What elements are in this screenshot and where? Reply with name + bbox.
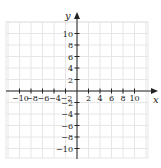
y-tick-label: 10 xyxy=(63,30,73,39)
x-tick-label: 2 xyxy=(86,94,91,103)
y-tick-label: −8 xyxy=(61,133,73,142)
x-tick-label: −4 xyxy=(49,94,61,103)
x-tick-label: 8 xyxy=(120,94,125,103)
x-tick-label: 6 xyxy=(109,94,114,103)
x-tick-label: −6 xyxy=(38,94,50,103)
y-tick-label: 8 xyxy=(68,41,73,50)
y-axis-arrow-icon xyxy=(74,12,80,19)
x-tick-label: −8 xyxy=(26,94,38,103)
x-tick-label: 4 xyxy=(97,94,102,103)
y-tick-label: 6 xyxy=(68,53,73,62)
coordinate-plane: −10−8−6−4−2246810108642−2−4−6−8−10 x y xyxy=(0,0,161,168)
y-axis-label: y xyxy=(64,10,71,21)
y-tick-label: 4 xyxy=(68,64,73,73)
y-tick-label: −10 xyxy=(56,145,73,154)
x-axis-label: x xyxy=(153,94,159,105)
y-tick-label: 2 xyxy=(68,76,73,85)
y-tick-label: −4 xyxy=(61,110,73,119)
y-tick-label: −2 xyxy=(61,99,73,108)
y-tick-label: −6 xyxy=(61,122,73,131)
x-tick-label: 10 xyxy=(129,94,139,103)
